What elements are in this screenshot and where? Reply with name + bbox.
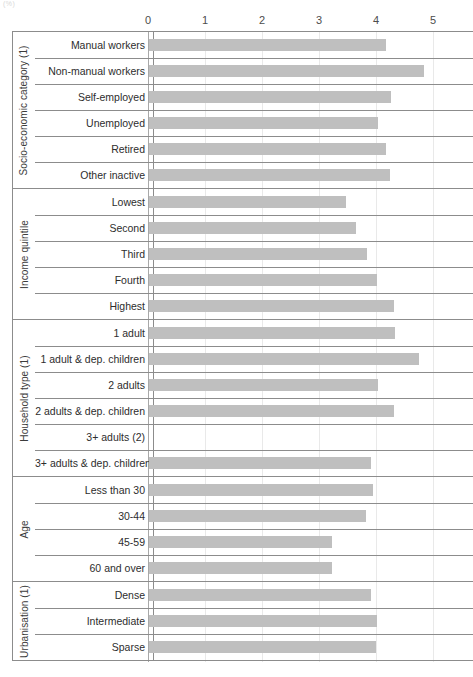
- bar-row-label: 1 adult: [35, 327, 153, 339]
- bar-row-label: 60 and over: [35, 562, 153, 574]
- bar-row[interactable]: Dense: [13, 582, 473, 608]
- bar-row-label: Fourth: [35, 274, 153, 286]
- bar[interactable]: [149, 405, 394, 417]
- bar-row-label: Unemployed: [35, 117, 153, 129]
- bar[interactable]: [149, 510, 366, 522]
- bar-row-label: 45-59: [35, 536, 153, 548]
- bar-row-label: Other inactive: [35, 169, 153, 181]
- bar[interactable]: [149, 300, 394, 312]
- bar-row-label: 3+ adults (2): [35, 431, 153, 443]
- bar[interactable]: [149, 615, 377, 627]
- bar[interactable]: [149, 91, 391, 103]
- x-axis-tick-0: 0: [145, 13, 151, 27]
- bar-row[interactable]: Other inactive: [13, 162, 473, 188]
- bar-track: [153, 529, 473, 555]
- bar-track: [153, 136, 473, 162]
- bar-track: [153, 634, 473, 660]
- bar-track: [153, 450, 473, 476]
- bar-row[interactable]: 2 adults: [13, 372, 473, 398]
- bar[interactable]: [149, 222, 356, 234]
- bar-row[interactable]: Manual workers: [13, 32, 473, 58]
- bar-track: [153, 110, 473, 136]
- bar-row[interactable]: 45-59: [13, 529, 473, 555]
- bar[interactable]: [149, 143, 386, 155]
- bar-row[interactable]: Unemployed: [13, 110, 473, 136]
- chart-group: Urbanisation (1)DenseIntermediateSparse: [12, 581, 473, 661]
- x-axis-tick-2: 2: [259, 13, 265, 27]
- bar-row-label: 2 adults: [35, 379, 153, 391]
- bar-row[interactable]: 30-44: [13, 503, 473, 529]
- bar-row-label: 1 adult & dep. children: [35, 353, 153, 365]
- bar-row[interactable]: Non-manual workers: [13, 58, 473, 84]
- bar[interactable]: [149, 641, 376, 653]
- bar[interactable]: [149, 65, 424, 77]
- bar-track: [153, 58, 473, 84]
- x-axis-tick-5: 5: [430, 13, 436, 27]
- x-axis-tick-3: 3: [316, 13, 322, 27]
- bar[interactable]: [149, 117, 378, 129]
- bar[interactable]: [149, 536, 332, 548]
- bar-row-label: 2 adults & dep. children: [35, 405, 153, 417]
- bar-row-label: Intermediate: [35, 615, 153, 627]
- bar-row-label: Lowest: [35, 196, 153, 208]
- bar-row-label: Retired: [35, 143, 153, 155]
- bar[interactable]: [149, 589, 371, 601]
- x-axis-tick-4: 4: [373, 13, 379, 27]
- bar-track: [153, 241, 473, 267]
- bar-row[interactable]: 1 adult: [13, 320, 473, 346]
- bar-track: [153, 582, 473, 608]
- chart-group: Household type (1)1 adult1 adult & dep. …: [12, 319, 473, 476]
- bar-row-label: Dense: [35, 589, 153, 601]
- bar[interactable]: [149, 248, 367, 260]
- bar[interactable]: [149, 196, 346, 208]
- bar-row[interactable]: 3+ adults (2): [13, 424, 473, 450]
- bar-row[interactable]: Second: [13, 215, 473, 241]
- bar-row[interactable]: 60 and over: [13, 555, 473, 581]
- chart-groups: Socio-economic category (1)Manual worker…: [12, 31, 473, 662]
- bar[interactable]: [149, 353, 419, 365]
- bar[interactable]: [149, 274, 377, 286]
- bar[interactable]: [149, 457, 371, 469]
- bar-track: [153, 346, 473, 372]
- x-axis-tick-1: 1: [202, 13, 208, 27]
- bar-row-label: Manual workers: [35, 39, 153, 51]
- chart-group: Income quintileLowestSecondThirdFourthHi…: [12, 188, 473, 319]
- bar-row[interactable]: Highest: [13, 293, 473, 319]
- bar-row[interactable]: Fourth: [13, 267, 473, 293]
- bar[interactable]: [149, 484, 373, 496]
- bar-track: [153, 215, 473, 241]
- bar-row-label: Non-manual workers: [35, 65, 153, 77]
- bar-track: [153, 32, 473, 58]
- bar-row-label: 3+ adults & dep. children: [35, 457, 153, 469]
- chart-group: AgeLess than 3030-4445-5960 and over: [12, 476, 473, 581]
- bar-row-label: Sparse: [35, 641, 153, 653]
- bar-row-label: Second: [35, 222, 153, 234]
- bar-track: [153, 162, 473, 188]
- bar-row[interactable]: Intermediate: [13, 608, 473, 634]
- bar-row[interactable]: Less than 30: [13, 477, 473, 503]
- bar-row[interactable]: 1 adult & dep. children: [13, 346, 473, 372]
- bar-track: [153, 608, 473, 634]
- bar[interactable]: [149, 379, 378, 391]
- bar[interactable]: [149, 39, 386, 51]
- bar[interactable]: [149, 169, 390, 181]
- bar-track: [153, 424, 473, 450]
- bar-track: [153, 398, 473, 424]
- bar-track: [153, 477, 473, 503]
- bar-row[interactable]: Self-employed: [13, 84, 473, 110]
- bar-row[interactable]: Retired: [13, 136, 473, 162]
- bar-row[interactable]: Sparse: [13, 634, 473, 660]
- bar-row-label: Self-employed: [35, 91, 153, 103]
- bar[interactable]: [149, 327, 395, 339]
- bar-track: [153, 267, 473, 293]
- bar[interactable]: [149, 562, 332, 574]
- bar-track: [153, 189, 473, 215]
- bar-row[interactable]: Lowest: [13, 189, 473, 215]
- bar-row[interactable]: 3+ adults & dep. children: [13, 450, 473, 476]
- bar-track: [153, 372, 473, 398]
- chart-group: Socio-economic category (1)Manual worker…: [12, 31, 473, 188]
- bar-row[interactable]: 2 adults & dep. children: [13, 398, 473, 424]
- bar-row[interactable]: Third: [13, 241, 473, 267]
- bar-track: [153, 293, 473, 319]
- bar-track: [153, 503, 473, 529]
